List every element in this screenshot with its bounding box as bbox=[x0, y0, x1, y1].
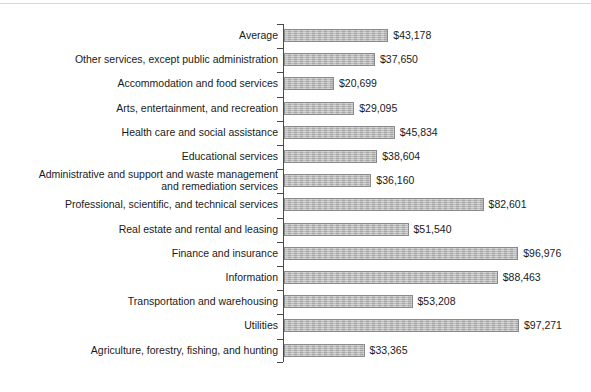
bar bbox=[284, 126, 395, 139]
bar-row: Arts, entertainment, and recreation$29,0… bbox=[0, 97, 591, 121]
bar-value-label: $20,699 bbox=[339, 77, 377, 90]
category-label: Information bbox=[10, 272, 278, 284]
bar-row: Finance and insurance$96,976 bbox=[0, 242, 591, 266]
top-divider-rule bbox=[0, 3, 591, 4]
category-label: Administrative and support and waste man… bbox=[10, 169, 278, 192]
bar bbox=[284, 295, 413, 308]
bar bbox=[284, 53, 375, 66]
category-label: Educational services bbox=[10, 151, 278, 163]
bar-value-label: $43,178 bbox=[393, 29, 431, 42]
bar-value-label: $38,604 bbox=[382, 150, 420, 163]
axis-tick-mark bbox=[277, 242, 283, 243]
bar-value-label: $53,208 bbox=[418, 295, 456, 308]
bar-value-label: $51,540 bbox=[414, 223, 452, 236]
bar-row: Professional, scientific, and technical … bbox=[0, 193, 591, 217]
axis-tick-mark bbox=[277, 290, 283, 291]
bar-row: Average$43,178 bbox=[0, 24, 591, 48]
bar bbox=[284, 174, 371, 187]
horizontal-bar-chart: Average$43,178Other services, except pub… bbox=[0, 0, 591, 392]
axis-tick-mark bbox=[277, 266, 283, 267]
axis-tick-mark bbox=[277, 193, 283, 194]
bar bbox=[284, 198, 484, 211]
bar-value-label: $82,601 bbox=[489, 198, 527, 211]
bar-row: Administrative and support and waste man… bbox=[0, 169, 591, 193]
category-label: Transportation and warehousing bbox=[10, 296, 278, 308]
category-label: Utilities bbox=[10, 320, 278, 332]
axis-tick-mark bbox=[277, 339, 283, 340]
category-label: Real estate and rental and leasing bbox=[10, 224, 278, 236]
axis-tick-mark bbox=[277, 24, 283, 25]
category-label: Arts, entertainment, and recreation bbox=[10, 103, 278, 115]
bar-row: Transportation and warehousing$53,208 bbox=[0, 290, 591, 314]
axis-tick-mark bbox=[277, 72, 283, 73]
bar bbox=[284, 247, 518, 260]
plot-area: Average$43,178Other services, except pub… bbox=[0, 18, 591, 376]
axis-tick-mark bbox=[277, 218, 283, 219]
bar-row: Utilities$97,271 bbox=[0, 314, 591, 338]
axis-tick-mark bbox=[277, 314, 283, 315]
bar bbox=[284, 150, 377, 163]
bar bbox=[284, 29, 388, 42]
category-label: Average bbox=[10, 30, 278, 42]
category-label: Other services, except public administra… bbox=[10, 54, 278, 66]
bar-value-label: $45,834 bbox=[400, 126, 438, 139]
bar-value-label: $29,095 bbox=[359, 102, 397, 115]
axis-tick-mark bbox=[277, 145, 283, 146]
axis-tick-mark bbox=[277, 169, 283, 170]
bar-row: Real estate and rental and leasing$51,54… bbox=[0, 218, 591, 242]
bar bbox=[284, 344, 365, 357]
bar-value-label: $37,650 bbox=[380, 53, 418, 66]
bar-value-label: $96,976 bbox=[523, 247, 561, 260]
bar-row: Health care and social assistance$45,834 bbox=[0, 121, 591, 145]
category-label: Health care and social assistance bbox=[10, 127, 278, 139]
bar-row: Information$88,463 bbox=[0, 266, 591, 290]
category-label: Agriculture, forestry, fishing, and hunt… bbox=[10, 345, 278, 357]
bar bbox=[284, 102, 354, 115]
bar-row: Other services, except public administra… bbox=[0, 48, 591, 72]
axis-tick-mark bbox=[277, 48, 283, 49]
bar-row: Agriculture, forestry, fishing, and hunt… bbox=[0, 339, 591, 363]
axis-tick-mark bbox=[277, 121, 283, 122]
category-label: Finance and insurance bbox=[10, 248, 278, 260]
bar bbox=[284, 77, 334, 90]
bar-value-label: $88,463 bbox=[503, 271, 541, 284]
bar bbox=[284, 319, 519, 332]
category-label: Accommodation and food services bbox=[10, 78, 278, 90]
axis-tick-mark bbox=[277, 97, 283, 98]
category-label: Professional, scientific, and technical … bbox=[10, 199, 278, 211]
bar-value-label: $33,365 bbox=[370, 344, 408, 357]
bar-value-label: $97,271 bbox=[524, 319, 562, 332]
bar-value-label: $36,160 bbox=[376, 174, 414, 187]
bar-row: Educational services$38,604 bbox=[0, 145, 591, 169]
bar bbox=[284, 271, 498, 284]
bar-row: Accommodation and food services$20,699 bbox=[0, 72, 591, 96]
axis-tick-mark bbox=[277, 362, 283, 363]
bar bbox=[284, 223, 409, 236]
